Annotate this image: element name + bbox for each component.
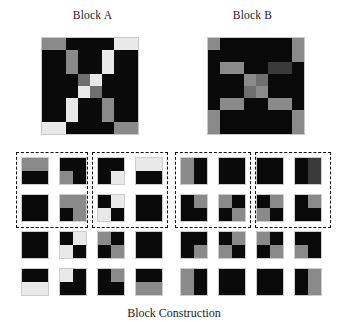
matrix-cell [292,74,304,86]
matrix-cell [280,62,292,74]
sub-block-cell [60,269,73,282]
matrix-cell [114,98,126,110]
sub-block-cell [308,208,321,221]
matrix-cell [126,62,138,74]
sub-block-cell [98,158,111,171]
matrix-cell [280,98,292,110]
sub-block-cell [181,282,194,295]
sub-block [136,195,162,221]
sub-block-cell [295,282,308,295]
sub-block-cell [232,158,245,171]
sub-block-cell [111,245,124,258]
sub-block-cell [35,195,48,208]
sub-block [136,158,162,184]
matrix-cell [42,62,54,74]
matrix-cell [90,98,102,110]
matrix-cell [208,50,220,62]
sub-block-cell [270,195,283,208]
matrix-cell [102,74,114,86]
matrix-cell [114,110,126,122]
sub-block-cell [149,245,162,258]
sub-block-cell [232,232,245,245]
matrix-cell [90,122,102,134]
matrix-cell [268,62,280,74]
sub-block-cell [257,208,270,221]
matrix-cell [256,122,268,134]
matrix-cell [102,38,114,50]
sub-block-cell [232,171,245,184]
matrix-cell [220,110,232,122]
sub-block-cell [60,282,73,295]
matrix-cell [292,122,304,134]
matrix-cell [114,50,126,62]
matrix-cell [244,86,256,98]
matrix-cell [54,38,66,50]
sub-block-cell [308,282,321,295]
block-b-matrix [208,38,304,134]
sub-block-cell [181,269,194,282]
matrix-cell [256,62,268,74]
matrix-cell [90,110,102,122]
sub-block-cell [194,282,207,295]
matrix-cell [90,86,102,98]
sub-block-cell [60,245,73,258]
sub-block [22,232,48,258]
matrix-cell [66,74,78,86]
sub-block-cell [270,269,283,282]
sub-block-cell [111,195,124,208]
sub-block-cell [98,208,111,221]
matrix-cell [102,98,114,110]
sub-block-cell [149,171,162,184]
sub-block-cell [111,282,124,295]
sub-block-cell [219,245,232,258]
matrix-cell [292,110,304,122]
sub-block-cell [136,232,149,245]
matrix-cell [54,50,66,62]
matrix-cell [66,86,78,98]
sub-block-cell [136,171,149,184]
sub-block-cell [219,282,232,295]
matrix-cell [90,74,102,86]
matrix-cell [102,50,114,62]
matrix-cell [232,62,244,74]
sub-block-cell [73,269,86,282]
sub-block-cell [194,245,207,258]
sub-block-cell [60,195,73,208]
matrix-cell [292,38,304,50]
matrix-cell [66,98,78,110]
matrix-cell [292,62,304,74]
sub-block-cell [295,158,308,171]
matrix-cell [126,50,138,62]
sub-block-cell [295,269,308,282]
matrix-cell [220,122,232,134]
sub-block-cell [35,208,48,221]
sub-block [60,232,86,258]
sub-block-cell [149,269,162,282]
matrix-cell [78,74,90,86]
matrix-cell [208,98,220,110]
matrix-cell [42,98,54,110]
sub-block-cell [257,232,270,245]
sub-block [60,158,86,184]
matrix-cell [78,62,90,74]
matrix-cell [54,98,66,110]
sub-block-cell [35,232,48,245]
matrix-cell [256,74,268,86]
sub-block [22,195,48,221]
sub-block-cell [270,245,283,258]
matrix-cell [280,86,292,98]
matrix-cell [268,122,280,134]
sub-block-cell [194,171,207,184]
sub-block-cell [60,158,73,171]
matrix-cell [256,86,268,98]
sub-block-cell [60,232,73,245]
sub-block-cell [136,158,149,171]
matrix-cell [54,110,66,122]
sub-block [257,158,283,184]
matrix-cell [280,122,292,134]
sub-block-cell [35,269,48,282]
figure-caption: Block Construction [0,306,348,321]
sub-block-cell [219,195,232,208]
block-a-title: Block A [45,9,140,21]
matrix-cell [232,50,244,62]
